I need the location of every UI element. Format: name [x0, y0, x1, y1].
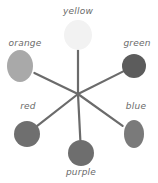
spoke-orange [34, 73, 78, 94]
color-wheel-diagram [0, 0, 158, 183]
paint-blob-green [122, 54, 146, 78]
label-red: red [20, 101, 36, 111]
paint-blob-orange [7, 50, 33, 82]
spoke-blue [78, 94, 123, 126]
label-blue: blue [126, 101, 146, 111]
label-green: green [123, 38, 150, 48]
label-orange: orange [9, 38, 42, 48]
paint-blob-red [14, 121, 40, 147]
label-yellow: yellow [63, 6, 93, 16]
spoke-red [37, 94, 78, 126]
spokes [34, 50, 123, 140]
spoke-green [78, 71, 123, 94]
paint-blob-purple [68, 140, 94, 166]
paint-blob-yellow [64, 20, 92, 50]
label-purple: purple [66, 167, 96, 177]
paint-blob-blue [124, 120, 144, 148]
spoke-purple [78, 94, 80, 140]
